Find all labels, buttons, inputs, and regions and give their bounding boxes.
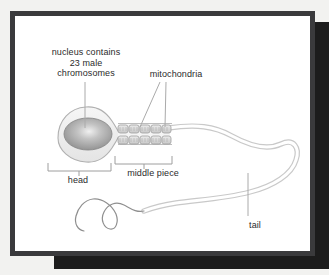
figure-root: nucleus contains 23 male chromosomes mit… (0, 0, 329, 275)
mitochondrion (140, 136, 150, 144)
mitochondrion (118, 136, 128, 144)
mitochondrion (162, 125, 171, 133)
mitochondria-row-bottom (118, 136, 171, 144)
label-nucleus: nucleus contains 23 male chromosomes (31, 47, 141, 79)
mitochondrion (151, 125, 161, 133)
nucleus (64, 118, 112, 150)
mitochondria-row-top (118, 125, 171, 133)
label-mitochondria: mitochondria (133, 69, 219, 80)
label-nucleus-line2: 23 male (31, 58, 141, 69)
label-nucleus-line3: chromosomes (31, 68, 141, 79)
label-head: head (47, 175, 109, 186)
mitochondrion (118, 125, 128, 133)
mitochondrion (151, 136, 161, 144)
mitochondrion (140, 125, 150, 133)
mitochondrion (129, 136, 139, 144)
mitochondrion (129, 125, 139, 133)
tail-wavy-tip (75, 199, 144, 231)
sperm-head (58, 107, 120, 162)
mitochondria-leader-line-right (165, 82, 166, 127)
sperm-diagram-svg (0, 0, 329, 275)
mitochondrion (162, 136, 171, 144)
label-middle-piece: middle piece (111, 168, 195, 179)
middle-piece-structure (118, 124, 172, 145)
mitochondria-leader-line-left (140, 82, 160, 127)
label-tail: tail (238, 220, 272, 231)
label-nucleus-line1: nucleus contains (31, 47, 141, 58)
